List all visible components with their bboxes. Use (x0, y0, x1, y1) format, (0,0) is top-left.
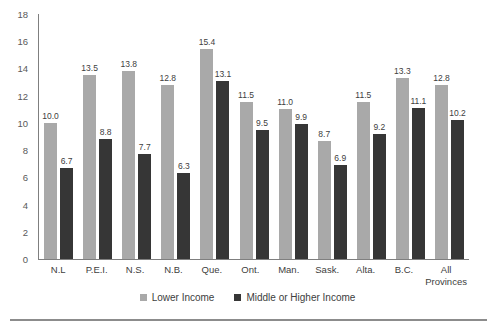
bar-value-label: 9.2 (373, 122, 385, 132)
x-axis-labels: N.LP.E.I.N.S.N.B.Que.Ont.Man.Sask.Alta.B… (39, 264, 469, 288)
bar-value-label: 12.8 (160, 73, 177, 83)
y-tick-label: 6 (23, 172, 28, 183)
bar-value-label: 11.0 (277, 97, 293, 107)
bar-group: 8.76.9 (313, 14, 352, 259)
x-axis-label: N.S. (116, 264, 154, 288)
bar-group: 13.58.8 (78, 14, 117, 259)
bar-middle-income: 9.9 (295, 124, 308, 259)
legend: Lower Income Middle or Higher Income (0, 292, 495, 303)
bar-lower-income: 13.5 (83, 75, 96, 259)
bar-group: 15.413.1 (195, 14, 234, 259)
bar-lower-income: 11.5 (240, 102, 253, 259)
bar-lower-income: 13.3 (396, 78, 409, 259)
legend-label-lower-income: Lower Income (152, 292, 215, 303)
y-tick-label: 16 (17, 36, 28, 47)
bar-value-label: 11.5 (355, 90, 371, 100)
bar-group: 11.59.5 (234, 14, 273, 259)
bar-middle-income: 8.8 (99, 139, 112, 259)
bar-lower-income: 12.8 (161, 85, 174, 259)
bar-group: 12.86.3 (156, 14, 195, 259)
bottom-divider (10, 319, 487, 321)
bar-group: 13.87.7 (117, 14, 156, 259)
x-axis-label: All Provinces (423, 264, 469, 288)
lower-income-swatch-icon (140, 294, 147, 301)
bar-lower-income: 12.8 (435, 85, 448, 259)
bar-group: 12.810.2 (430, 14, 469, 259)
bar-value-label: 13.1 (215, 69, 232, 79)
y-tick-label: 0 (23, 254, 28, 265)
bar-lower-income: 13.8 (122, 71, 135, 259)
bar-value-label: 6.3 (178, 161, 190, 171)
bar-middle-income: 6.7 (60, 168, 73, 259)
x-axis-label: Ont. (231, 264, 269, 288)
y-axis-tick-labels: 024681012141618 (0, 14, 33, 259)
y-tick-label: 18 (17, 9, 28, 20)
bar-middle-income: 6.3 (177, 173, 190, 259)
bar-value-label: 7.7 (139, 142, 151, 152)
legend-key-middle-income: Middle or Higher Income (234, 292, 355, 303)
bar-value-label: 6.9 (334, 153, 346, 163)
x-axis-label: Man. (270, 264, 308, 288)
bar-value-label: 13.8 (120, 59, 137, 69)
bar-group: 11.59.2 (352, 14, 391, 259)
bar-group: 13.311.1 (391, 14, 430, 259)
bar-value-label: 8.7 (318, 129, 330, 139)
bar-lower-income: 11.0 (279, 109, 292, 259)
bar-chart-figure: 024681012141618 10.06.713.58.813.87.712.… (0, 0, 495, 327)
bar-value-label: 11.1 (410, 96, 426, 106)
plot-area: 10.06.713.58.813.87.712.86.315.413.111.5… (39, 14, 469, 259)
bar-value-label: 15.4 (199, 37, 216, 47)
bar-lower-income: 15.4 (200, 49, 213, 259)
bar-middle-income: 7.7 (138, 154, 151, 259)
legend-label-middle-income: Middle or Higher Income (246, 292, 355, 303)
bar-middle-income: 10.2 (451, 120, 464, 259)
bar-value-label: 9.9 (295, 112, 307, 122)
y-tick-label: 14 (17, 63, 28, 74)
bar-group: 10.06.7 (39, 14, 78, 259)
y-tick-label: 12 (17, 90, 28, 101)
x-axis-label: B.C. (385, 264, 423, 288)
x-axis-label: N.B. (154, 264, 192, 288)
bar-value-label: 10.2 (449, 108, 466, 118)
bar-middle-income: 11.1 (412, 108, 425, 259)
y-tick-label: 4 (23, 199, 28, 210)
bar-middle-income: 9.5 (256, 130, 269, 259)
bar-value-label: 13.5 (81, 63, 98, 73)
x-axis-line (38, 259, 469, 260)
bar-value-label: 13.3 (394, 66, 411, 76)
bar-lower-income: 10.0 (44, 123, 57, 259)
legend-key-lower-income: Lower Income (140, 292, 215, 303)
middle-income-swatch-icon (234, 294, 241, 301)
bar-middle-income: 13.1 (216, 81, 229, 259)
bar-value-label: 10.0 (42, 111, 59, 121)
bar-middle-income: 9.2 (373, 134, 386, 259)
bar-lower-income: 8.7 (318, 141, 331, 259)
y-tick-label: 8 (23, 145, 28, 156)
bar-value-label: 6.7 (61, 156, 73, 166)
x-axis-label: Sask. (308, 264, 346, 288)
x-axis-label: Alta. (346, 264, 384, 288)
y-tick-label: 2 (23, 226, 28, 237)
bar-group: 11.09.9 (274, 14, 313, 259)
x-axis-label: P.E.I. (77, 264, 115, 288)
x-axis-label: N.L (39, 264, 77, 288)
y-tick-label: 10 (17, 117, 28, 128)
bar-value-label: 9.5 (256, 118, 268, 128)
bar-value-label: 12.8 (433, 73, 450, 83)
bar-lower-income: 11.5 (357, 102, 370, 259)
bar-value-label: 8.8 (100, 127, 112, 137)
x-axis-label: Que. (193, 264, 231, 288)
bar-middle-income: 6.9 (334, 165, 347, 259)
bar-value-label: 11.5 (238, 90, 254, 100)
